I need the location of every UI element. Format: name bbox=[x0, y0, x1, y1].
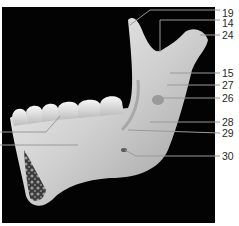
label-29: 29 bbox=[222, 128, 234, 139]
mandible-illustration bbox=[0, 0, 239, 226]
label-30: 30 bbox=[222, 151, 234, 162]
label-14: 14 bbox=[222, 18, 234, 29]
label-26: 26 bbox=[222, 93, 234, 104]
mental-foramen bbox=[121, 148, 127, 152]
label-15: 15 bbox=[222, 68, 234, 79]
masseteric-area bbox=[152, 95, 164, 105]
label-24: 24 bbox=[222, 30, 234, 41]
label-27: 27 bbox=[222, 80, 234, 91]
